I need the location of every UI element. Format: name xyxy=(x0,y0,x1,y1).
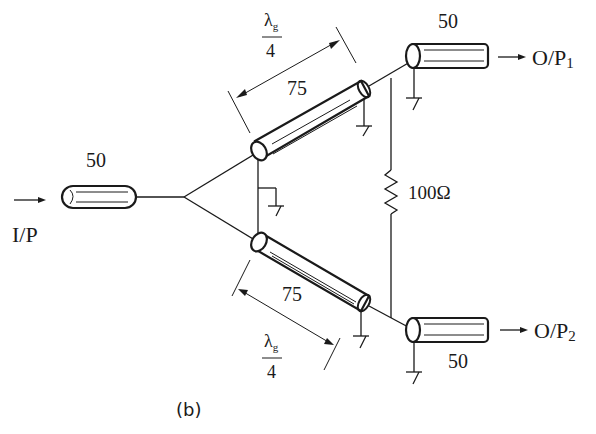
output-1-label: O/P1 xyxy=(532,45,574,71)
upper-length-label: λg 4 xyxy=(262,10,282,61)
svg-text:4: 4 xyxy=(266,41,275,61)
upper-branch-impedance: 75 xyxy=(287,77,307,99)
lower-split-wire xyxy=(184,197,258,242)
svg-text:4: 4 xyxy=(267,362,276,382)
lower-length-label: λg 4 xyxy=(262,331,282,382)
lower-coax-line xyxy=(248,230,373,313)
input-line-impedance: 50 xyxy=(86,149,106,171)
svg-text:λg: λg xyxy=(264,331,279,353)
input-arrow-icon xyxy=(14,197,46,203)
output-1-arrow-icon xyxy=(498,54,526,60)
output-2-arrow-icon xyxy=(500,327,528,333)
isolation-resistor-icon xyxy=(385,78,397,318)
upper-ground-icon xyxy=(356,98,372,136)
lower-ground-icon xyxy=(353,310,369,348)
output-2-ground-icon xyxy=(406,342,422,384)
resistor-value: 100Ω xyxy=(408,182,451,203)
input-coax-line xyxy=(62,186,136,208)
upper-split-wire xyxy=(184,152,258,197)
output-1-ground-icon xyxy=(406,68,422,110)
output-1-line-impedance: 50 xyxy=(438,10,458,32)
output-2-line-impedance: 50 xyxy=(448,350,468,372)
svg-text:λg: λg xyxy=(264,10,279,32)
lower-branch-impedance: 75 xyxy=(282,283,302,305)
output-2-label: O/P2 xyxy=(534,318,576,344)
figure-caption: (b) xyxy=(176,399,201,420)
lower-output-wire xyxy=(369,306,410,328)
output-2-coax-line xyxy=(406,318,488,342)
upper-coax-line xyxy=(248,79,373,163)
junction-ground-icon xyxy=(258,158,284,234)
wilkinson-divider-diagram: I/P 50 75 xyxy=(0,0,596,434)
output-1-coax-line xyxy=(406,44,488,68)
upper-output-wire xyxy=(369,62,410,86)
input-label: I/P xyxy=(12,222,38,247)
